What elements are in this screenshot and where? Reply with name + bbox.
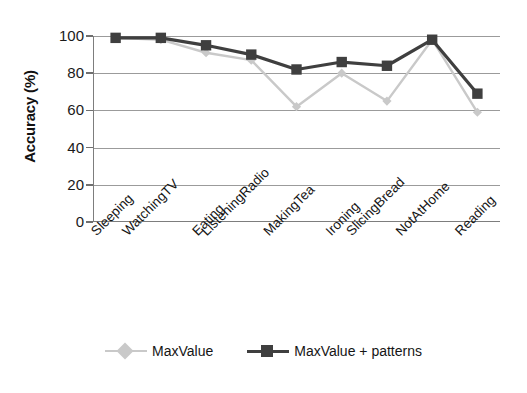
y-tick-mark [86,110,93,112]
series-line [116,38,478,112]
chart-figure: Accuracy (%) 020406080100 SleepingWatchi… [0,0,527,393]
legend-label: MaxValue [152,343,213,359]
y-tick-mark [86,147,93,149]
y-tick-label: 80 [0,64,84,81]
y-tick-label: 40 [0,139,84,156]
series-1 [111,33,482,117]
data-point-marker [472,88,482,98]
chart-legend: MaxValueMaxValue + patterns [0,338,527,364]
data-point-marker [427,35,437,45]
y-tick-mark [86,184,93,186]
series-2 [110,33,482,99]
legend-swatch [105,344,147,358]
data-point-marker [382,61,392,71]
y-tick-mark [86,72,93,74]
legend-entry[interactable]: MaxValue [105,343,213,359]
x-axis-category-labels: SleepingWatchingTVEatingListeningRadioMa… [0,222,527,332]
data-point-marker [337,57,347,67]
y-tick-label: 60 [0,101,84,118]
data-point-marker [246,49,256,59]
legend-label: MaxValue + patterns [294,343,422,359]
data-point-marker [201,40,211,50]
data-point-marker [110,33,120,43]
legend-entry[interactable]: MaxValue + patterns [247,343,422,359]
y-tick-mark [86,35,93,37]
legend-swatch [247,344,289,358]
data-point-marker [291,64,301,74]
legend-marker-square [261,345,273,357]
legend-marker-diamond [117,343,134,360]
data-point-marker [156,33,166,43]
y-tick-label: 100 [0,27,84,44]
y-axis-tick-labels: 020406080100 [0,36,86,222]
y-tick-label: 20 [0,176,84,193]
